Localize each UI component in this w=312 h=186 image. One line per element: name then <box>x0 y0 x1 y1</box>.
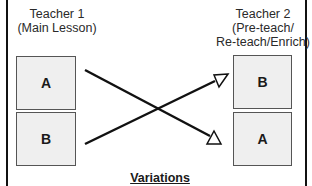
open-triangle-arrowhead-icon <box>207 131 221 144</box>
crossing-arrows <box>0 0 312 186</box>
diagram-caption: Variations <box>110 171 210 185</box>
open-triangle-arrowhead-icon <box>214 74 228 87</box>
